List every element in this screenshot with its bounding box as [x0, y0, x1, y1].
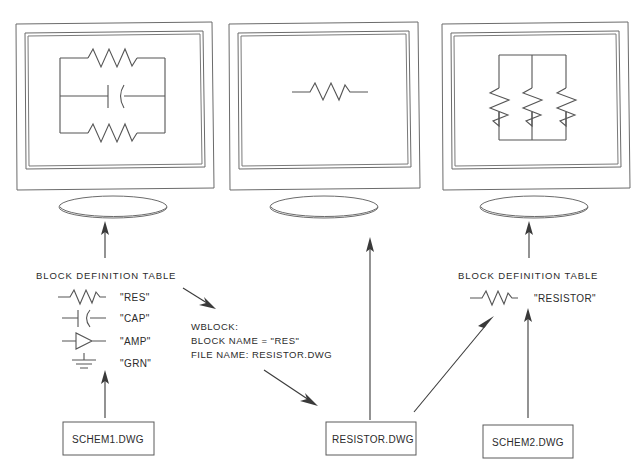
arrow-wblock-to-resistor-file [264, 370, 318, 406]
wblock-command-block: WBLOCK: BLOCK NAME = "RES" FILE NAME: RE… [191, 321, 332, 360]
arrow-res-to-wblock [183, 288, 216, 309]
circuit-parallel-rc [60, 49, 165, 142]
file-box-schem1-label: SCHEM1.DWG [72, 434, 144, 445]
file-box-schem2: SCHEM2.DWG [483, 425, 573, 458]
right-table-heading: BLOCK DEFINITION TABLE [458, 270, 598, 281]
file-box-schem1: SCHEM1.DWG [63, 422, 154, 455]
left-table-heading: BLOCK DEFINITION TABLE [36, 270, 176, 281]
circuit-three-resistors [490, 55, 576, 140]
right-block-definition-table: BLOCK DEFINITION TABLE "RESISTOR" [458, 270, 598, 305]
left-table-row-0-label: "RES" [120, 292, 150, 303]
ground-symbol [72, 353, 96, 368]
monitor-right [442, 22, 630, 218]
arrow-resistor-to-monitor-center [366, 237, 374, 420]
file-box-resistor: RESISTOR.DWG [326, 422, 416, 455]
resistor-symbol [470, 291, 518, 305]
arrow-resistor-file-to-right-table [414, 316, 494, 412]
monitor-left [16, 22, 214, 218]
file-box-schem2-label: SCHEM2.DWG [492, 437, 564, 448]
file-box-resistor-label: RESISTOR.DWG [332, 434, 414, 445]
arrow-schem1-to-monitor-left [101, 221, 109, 258]
left-table-row-2-label: "AMP" [120, 336, 151, 347]
wblock-line-3: FILE NAME: RESISTOR.DWG [191, 349, 332, 360]
arrow-schem2-box-to-table [524, 308, 532, 418]
capacitor-symbol [62, 310, 106, 327]
resistor-symbol [58, 290, 106, 304]
monitor-center [229, 22, 420, 218]
amplifier-symbol [62, 333, 106, 349]
left-table-row-1-label: "CAP" [120, 313, 150, 324]
wblock-line-1: WBLOCK: [191, 321, 238, 332]
diagram-canvas: BLOCK DEFINITION TABLE "RES" "CAP" "AMP"… [0, 0, 637, 471]
circuit-single-resistor [292, 83, 368, 100]
arrow-schem2-to-monitor-right [525, 221, 533, 258]
right-table-row-0-label: "RESISTOR" [534, 293, 596, 304]
left-block-definition-table: BLOCK DEFINITION TABLE "RES" "CAP" "AMP"… [36, 270, 176, 369]
wblock-line-2: BLOCK NAME = "RES" [191, 335, 299, 346]
arrow-schem1-box-to-table [101, 370, 109, 418]
left-table-row-3-label: "GRN" [120, 358, 151, 369]
